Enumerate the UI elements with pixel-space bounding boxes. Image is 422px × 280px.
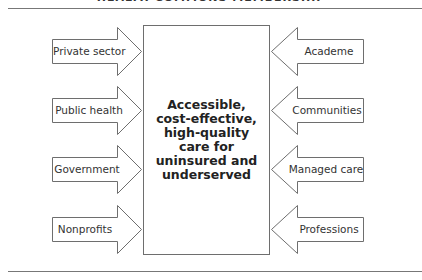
center-line: high-quality: [156, 126, 258, 140]
arrow-label-public-health: Public health: [53, 104, 125, 116]
arrow-label-managed-care: Managed care: [288, 163, 364, 175]
center-line: Accessible,: [156, 98, 258, 112]
center-line: underserved: [156, 168, 258, 182]
center-line: uninsured and: [156, 154, 258, 168]
arrow-label-private-sector: Private sector: [53, 45, 125, 57]
arrow-label-professions: Professions: [294, 223, 364, 235]
arrow-label-government: Government: [53, 163, 121, 175]
center-goal-text: Accessible, cost-effective, high-quality…: [156, 98, 258, 182]
center-line: care for: [156, 140, 258, 154]
arrow-label-communities: Communities: [290, 104, 364, 116]
center-box: Accessible, cost-effective, high-quality…: [143, 25, 270, 255]
center-line: cost-effective,: [156, 112, 258, 126]
arrow-label-academe: Academe: [294, 45, 364, 57]
arrow-label-nonprofits: Nonprofits: [53, 223, 117, 235]
